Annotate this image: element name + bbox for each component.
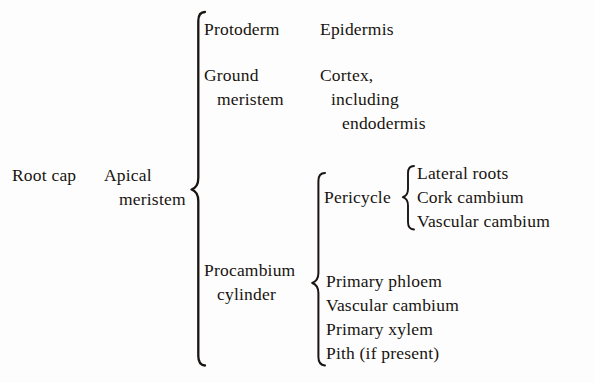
- vascular-cambium-pericycle-label: Vascular cambium: [417, 209, 550, 233]
- ground-meristem-label-line1: Ground: [204, 63, 259, 87]
- pith-label: Pith (if present): [326, 341, 439, 365]
- primary-xylem-label: Primary xylem: [326, 317, 433, 341]
- procambium-cylinder-label-line1: Procambium: [204, 258, 295, 282]
- diagram-canvas: Root cap Apical meristem Protoderm Groun…: [0, 0, 594, 383]
- vascular-cambium-label: Vascular cambium: [326, 293, 459, 317]
- root-cap-label: Root cap: [12, 163, 76, 187]
- cork-cambium-label: Cork cambium: [417, 185, 524, 209]
- apical-meristem-brace: [192, 12, 206, 366]
- ground-meristem-label-line2: meristem: [217, 87, 284, 111]
- pericycle-label: Pericycle: [324, 185, 391, 209]
- pericycle-brace: [403, 166, 414, 230]
- apical-meristem-label-line2: meristem: [119, 187, 186, 211]
- epidermis-label: Epidermis: [320, 17, 394, 41]
- primary-phloem-label: Primary phloem: [326, 269, 442, 293]
- procambium-cylinder-label-line2: cylinder: [217, 282, 276, 306]
- apical-meristem-label-line1: Apical: [104, 163, 152, 187]
- lateral-roots-label: Lateral roots: [417, 161, 509, 185]
- cortex-label-line2: including: [331, 87, 399, 111]
- cortex-label-line3: endodermis: [342, 111, 426, 135]
- cortex-label-line1: Cortex,: [320, 63, 373, 87]
- protoderm-label: Protoderm: [204, 17, 280, 41]
